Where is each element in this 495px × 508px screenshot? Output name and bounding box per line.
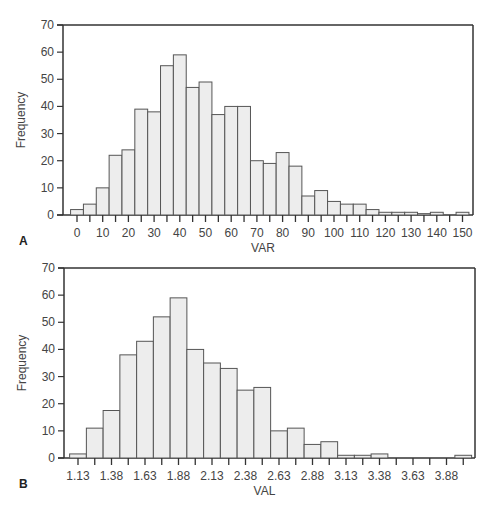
histogram-bar [418,214,431,215]
histogram-bar [220,368,237,458]
histogram-bar [153,317,170,458]
histogram-bar [263,163,276,215]
y-tick-label: 50 [42,315,56,329]
histogram-bar [109,155,122,215]
histogram-bar [135,109,148,215]
y-tick-label: 20 [41,154,55,168]
y-tick-label: 40 [42,342,56,356]
histogram-bar [83,204,96,215]
histogram-bar [238,106,251,215]
y-tick-label: 20 [42,397,56,411]
histogram-bar [173,55,186,215]
x-tick-label: 50 [199,226,213,240]
histogram-bar [103,411,120,459]
y-axis-label: Frequency [15,335,29,392]
histogram-b-plot: 010203040506070Frequency1.131.381.631.88… [0,255,495,508]
y-tick-label: 30 [42,370,56,384]
histogram-a-plot: 010203040506070Frequency0102030405060708… [0,0,495,255]
x-tick-label: 90 [302,226,316,240]
histogram-bar [212,115,225,215]
histogram-bar [321,442,338,458]
x-tick-label: 10 [96,226,110,240]
histogram-bar [161,66,174,215]
x-tick-label: 2.13 [200,469,224,483]
x-tick-label: 130 [401,226,421,240]
y-tick-label: 60 [41,45,55,59]
x-axis-label: VAL [254,484,276,498]
x-tick-label: 100 [324,226,344,240]
histogram-bar [405,212,418,215]
histogram-bar [302,196,315,215]
histogram-bar [354,455,371,458]
histogram-bar [86,428,103,458]
x-tick-label: 70 [250,226,264,240]
x-tick-label: 110 [350,226,369,240]
x-tick-label: 3.13 [334,469,358,483]
x-tick-label: 3.63 [401,469,425,483]
x-tick-label: 0 [74,226,81,240]
histogram-bar [199,82,212,215]
histogram-bar [289,166,302,215]
histogram-bar [366,210,379,215]
x-tick-label: 30 [147,226,161,240]
histogram-bar [379,212,392,215]
x-tick-label: 2.88 [301,469,325,483]
y-tick-label: 30 [41,127,55,141]
x-tick-label: 150 [452,226,472,240]
x-tick-label: 140 [427,226,447,240]
y-tick-label: 50 [41,72,55,86]
histogram-bar [71,210,84,215]
histogram-bar [250,161,263,215]
x-tick-label: 3.88 [435,469,459,483]
x-axis-label: VAR [251,241,275,255]
x-tick-label: 1.63 [133,469,157,483]
histogram-bar [340,204,353,215]
histogram-bar [70,454,87,458]
histogram-bar [137,341,154,458]
histogram-bar [120,355,137,458]
histogram-bar [170,298,187,458]
panel-label: B [19,477,28,491]
histogram-a: 010203040506070Frequency0102030405060708… [0,0,495,255]
y-tick-label: 0 [48,451,55,465]
x-tick-label: 1.88 [167,469,191,483]
x-tick-label: 1.13 [66,469,90,483]
histogram-bar [353,204,366,215]
y-tick-label: 10 [41,181,55,195]
x-tick-label: 2.38 [234,469,258,483]
panel-label: A [19,234,28,248]
y-tick-label: 0 [47,208,54,222]
histogram-bar [204,363,221,458]
histogram-bar [237,390,254,458]
x-tick-label: 2.63 [267,469,291,483]
histogram-b: 010203040506070Frequency1.131.381.631.88… [0,255,495,508]
histogram-bar [187,349,204,458]
histogram-bar [148,112,161,215]
histogram-bar [271,431,288,458]
x-tick-label: 60 [225,226,239,240]
x-tick-label: 40 [173,226,187,240]
histogram-bar [122,150,135,215]
histogram-bar [254,387,271,458]
y-tick-label: 70 [41,18,55,32]
histogram-bar [96,188,109,215]
x-tick-label: 80 [276,226,290,240]
x-tick-label: 120 [375,226,395,240]
histogram-bar [287,428,304,458]
histogram-bar [371,454,388,458]
histogram-bar [338,455,355,458]
histogram-bar [328,201,341,215]
histogram-bar [304,444,321,458]
histogram-bar [276,153,289,215]
y-tick-label: 40 [41,99,55,113]
x-tick-label: 3.38 [368,469,392,483]
x-tick-label: 20 [122,226,136,240]
y-tick-label: 10 [42,424,56,438]
histogram-bar [186,87,199,215]
x-tick-label: 1.38 [100,469,124,483]
y-axis-label: Frequency [14,92,28,149]
histogram-bar [392,212,405,215]
histogram-bar [225,106,238,215]
y-tick-label: 60 [42,288,56,302]
histogram-bar [315,191,328,215]
